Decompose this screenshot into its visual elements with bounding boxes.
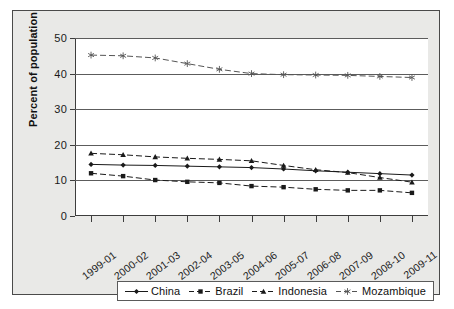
chart-legend: ChinaBrazilIndonesiaMozambique [117, 281, 434, 301]
series-brazil [89, 171, 414, 195]
data-point [88, 162, 93, 167]
data-point [121, 162, 126, 167]
legend-item-china: China [125, 285, 180, 297]
data-point [249, 165, 254, 170]
legend-label: China [151, 285, 180, 297]
x-tick-label: 1999-01 [80, 249, 119, 282]
x-tick-label: 2009-11 [401, 248, 439, 281]
x-tick-mark [316, 216, 317, 222]
x-tick-mark [412, 216, 413, 222]
legend-key-square-icon [189, 286, 212, 297]
series-layer [75, 38, 428, 216]
x-tick-label: 2005-07 [272, 249, 311, 282]
x-tick-mark [348, 216, 349, 222]
legend-label: Brazil [215, 285, 243, 297]
x-tick-label: 2004-06 [240, 249, 279, 282]
legend-key-triangle-icon [252, 286, 275, 297]
x-tick-mark [123, 216, 124, 222]
plot-wrapper: 01020304050 1999-012000-022001-032002-04… [75, 38, 428, 216]
data-point [153, 178, 157, 182]
legend-item-brazil: Brazil [189, 285, 243, 297]
series-mozambique [88, 52, 415, 81]
data-point [121, 174, 125, 178]
x-tick-label: 2006-08 [304, 249, 343, 282]
x-tick-label: 2008-10 [368, 249, 407, 282]
x-tick-mark [380, 216, 381, 222]
x-tick-label: 2001-03 [144, 249, 183, 282]
y-tick-label: 50 [54, 32, 67, 44]
data-point [409, 172, 414, 177]
data-point [185, 180, 189, 184]
series-line [91, 173, 412, 193]
x-tick-mark [91, 216, 92, 222]
legend-item-indonesia: Indonesia [252, 285, 327, 297]
figure-frame: Percent of population 01020304050 1999-0… [12, 10, 440, 295]
data-point [313, 187, 317, 191]
data-point [185, 164, 190, 169]
y-tick-label: 30 [54, 103, 67, 115]
y-tick-label: 10 [54, 174, 67, 186]
legend-label: Mozambique [362, 285, 426, 297]
x-tick-label: 2000-02 [112, 249, 151, 282]
x-tick-mark [252, 216, 253, 222]
x-tick-mark [155, 216, 156, 222]
legend-key-diamond-icon [125, 286, 148, 297]
x-tick-mark [284, 216, 285, 222]
y-tick-label: 0 [61, 210, 67, 222]
x-tick-label: 2003-05 [208, 249, 247, 282]
chart-figure: Percent of population 01020304050 1999-0… [0, 0, 454, 309]
x-tick-label: 2007-09 [336, 249, 375, 282]
data-point [281, 185, 285, 189]
x-tick-mark [187, 216, 188, 222]
data-point [249, 184, 253, 188]
y-tick-label: 20 [54, 139, 67, 151]
data-point [378, 188, 382, 192]
y-tick-label: 40 [54, 68, 67, 80]
x-tick-mark [219, 216, 220, 222]
data-point [346, 188, 350, 192]
x-tick-label: 2002-04 [176, 249, 215, 282]
data-point [217, 164, 222, 169]
data-point [153, 163, 158, 168]
data-point [217, 181, 221, 185]
legend-item-mozambique: Mozambique [336, 285, 426, 297]
legend-label: Indonesia [278, 285, 327, 297]
y-axis-title: Percent of population [27, 12, 39, 127]
data-point [89, 171, 93, 175]
legend-key-asterisk-icon [336, 286, 359, 297]
data-point [410, 191, 414, 195]
y-tick-mark [70, 216, 75, 217]
